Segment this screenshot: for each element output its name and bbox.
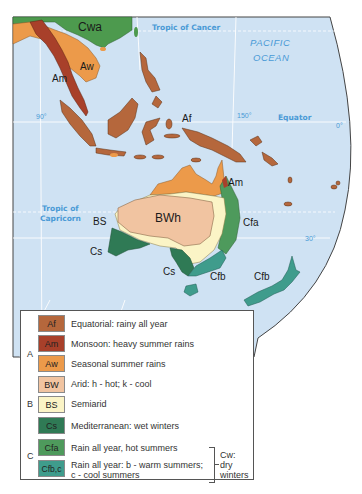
legend-desc-cs: Mediterranean: wet winters <box>71 421 179 431</box>
legend-desc-af: Equatorial: rainy all year <box>71 319 168 329</box>
label-am-aus: Am <box>228 177 243 188</box>
legend-desc-am: Monsoon: heavy summer rains <box>71 339 194 349</box>
legend-swatch-am: Am <box>38 335 65 352</box>
cw-note-line1: Cw: <box>220 450 249 460</box>
label-cfb-tas: Cfb <box>210 271 226 282</box>
legend-swatch-bw: BW <box>38 376 65 393</box>
label-aw: Aw <box>80 61 94 72</box>
label-pacific: PACIFIC <box>250 37 290 48</box>
label-cs-south: Cs <box>163 266 175 277</box>
legend-group-c: C <box>27 451 34 461</box>
label-lon-90: 90° <box>36 113 47 120</box>
legend-group-b: B <box>27 399 33 409</box>
legend-desc-cfa: Rain all year, hot summers <box>71 443 178 453</box>
legend-bracket-tick <box>215 464 219 465</box>
legend-desc-cfbc-2: c - cool summers <box>71 470 140 480</box>
legend-swatch-bs: BS <box>38 396 65 413</box>
legend-desc-aw: Seasonal summer rains <box>71 359 166 369</box>
label-tropic-capricorn-1: Tropic of <box>42 204 79 213</box>
legend-cw-note: Cw: dry winters <box>220 450 249 480</box>
label-cwa: Cwa <box>78 20 102 34</box>
label-ocean: OCEAN <box>253 52 289 63</box>
label-tropic-capricorn-2: Capricorn <box>40 214 81 223</box>
label-cfa: Cfa <box>243 217 259 228</box>
label-cs-west: Cs <box>90 246 102 257</box>
legend-group-a: A <box>27 349 33 359</box>
legend: A B C Af Equatorial: rainy all year Am M… <box>20 310 254 480</box>
legend-swatch-cfa: Cfa <box>38 439 65 456</box>
label-tropic-cancer: Tropic of Cancer <box>152 23 221 32</box>
legend-desc-bw: Arid: h - hot; k - cool <box>71 379 152 389</box>
legend-desc-cfbc-1: Rain all year: b - warm summers; <box>71 460 203 470</box>
label-af: Af <box>182 113 192 124</box>
label-lat-30: 30° <box>305 235 316 242</box>
cw-note-line3: winters <box>220 470 249 480</box>
legend-swatch-cfbc: Cfb,c <box>38 460 65 477</box>
cw-note-line2: dry <box>220 460 249 470</box>
legend-swatch-af: Af <box>38 315 65 332</box>
label-lat-0: 0° <box>336 122 343 129</box>
legend-desc-bs: Semiarid <box>71 399 107 409</box>
label-equator: Equator <box>278 113 312 122</box>
label-cfb-nz: Cfb <box>254 271 270 282</box>
label-bs: BS <box>93 216 107 227</box>
legend-swatch-cs: Cs <box>38 417 65 434</box>
legend-swatch-aw: Aw <box>38 355 65 372</box>
label-bwh: BWh <box>155 211 181 225</box>
label-lon-150: 150° <box>237 112 252 119</box>
legend-bracket <box>209 447 215 483</box>
label-am-asia: Am <box>52 73 67 84</box>
